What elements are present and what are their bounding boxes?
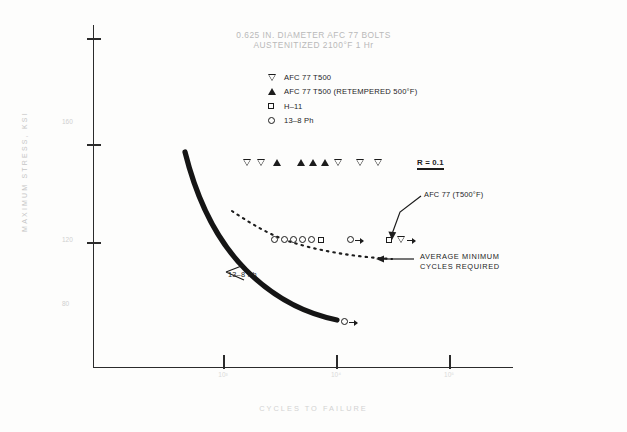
annotation-afc77-callout: AFC 77 (T500°F) xyxy=(424,190,483,199)
x-tick-0 xyxy=(223,355,225,369)
y-tick-label-0: 160 xyxy=(62,118,73,125)
data-point-afc77-4 xyxy=(356,159,364,166)
y-tick-2 xyxy=(87,242,101,244)
data-point-afc77-1 xyxy=(243,159,251,166)
legend-item-13-8ph: 13–8 Ph xyxy=(268,114,417,129)
x-tick-1 xyxy=(336,355,338,369)
square-open-icon xyxy=(268,103,284,109)
runout-arrow-1 xyxy=(355,240,363,241)
data-point-afc77r-4 xyxy=(321,159,329,166)
legend-label-0: AFC 77 T500 xyxy=(284,73,331,82)
data-point-h11-runout xyxy=(386,237,392,243)
data-point-afc77r-1 xyxy=(273,159,281,166)
x-tick-label-2: 10⁵ xyxy=(444,371,454,378)
data-point-afc77-runout xyxy=(397,236,405,243)
annotation-13-8ph-curve: 13–8 Ph xyxy=(228,270,257,279)
y-axis-label: MAXIMUM STRESS, KSI xyxy=(21,102,28,242)
x-tick-label-1: 10⁴ xyxy=(331,371,341,378)
y-tick-1 xyxy=(87,144,101,146)
x-axis-label: CYCLES TO FAILURE xyxy=(0,404,627,413)
circle-open-icon xyxy=(268,117,284,124)
triangle-up-filled-icon xyxy=(268,88,284,95)
legend: AFC 77 T500 AFC 77 T500 (RETEMPERED 500°… xyxy=(268,70,417,128)
data-point-afc77r-2 xyxy=(297,159,305,166)
runout-arrow-3 xyxy=(349,322,357,323)
triangle-down-open-icon xyxy=(268,74,284,81)
data-point-afc77-3 xyxy=(334,159,342,166)
y-tick-label-1: 120 xyxy=(62,236,73,243)
legend-item-afc77-t500: AFC 77 T500 xyxy=(268,70,417,85)
legend-item-h11: H–11 xyxy=(268,99,417,114)
data-point-afc77-5 xyxy=(374,159,382,166)
x-tick-2 xyxy=(449,355,451,369)
annotation-average-minimum-line1: AVERAGE MINIMUM xyxy=(420,252,500,261)
annotation-stress-ratio: R = 0.1 xyxy=(417,158,444,170)
legend-label-2: H–11 xyxy=(284,102,302,111)
runout-arrow-2 xyxy=(407,240,415,241)
legend-label-3: 13–8 Ph xyxy=(284,116,314,125)
legend-item-afc77-retempered: AFC 77 T500 (RETEMPERED 500°F) xyxy=(268,85,417,100)
data-point-afc77r-3 xyxy=(309,159,317,166)
chart-page: 0.625 IN. DIAMETER AFC 77 BOLTS AUSTENIT… xyxy=(0,0,627,432)
y-tick-label-2: 80 xyxy=(62,300,69,307)
annotation-average-minimum-line2: CYCLES REQUIRED xyxy=(420,262,500,271)
data-point-h11-1 xyxy=(318,237,324,243)
legend-label-1: AFC 77 T500 (RETEMPERED 500°F) xyxy=(284,87,417,96)
data-point-afc77-2 xyxy=(257,159,265,166)
y-tick-0 xyxy=(87,38,101,40)
x-tick-label-0: 10³ xyxy=(218,371,227,378)
